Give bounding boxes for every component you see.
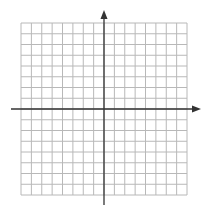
coordinate-plane xyxy=(0,0,214,213)
x-axis-arrow-icon xyxy=(192,106,201,113)
y-axis-arrow-icon xyxy=(101,10,108,19)
